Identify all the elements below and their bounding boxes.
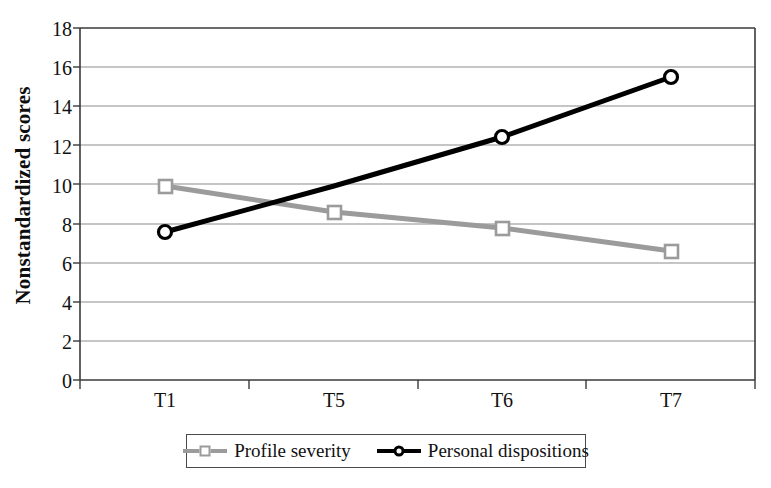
data-point-personal-dispositions-t1: [159, 226, 172, 239]
data-point-profile-severity-t7: [665, 245, 678, 258]
data-point-profile-severity-t1: [159, 180, 172, 193]
circle-marker-icon: [377, 443, 421, 459]
data-point-profile-severity-t5: [328, 206, 341, 219]
y-axis-ticks: [73, 28, 80, 380]
legend-label-profile-severity: Profile severity: [234, 441, 351, 461]
data-point-personal-dispositions-t7: [665, 71, 678, 84]
x-tick-label-t5: T5: [323, 389, 345, 411]
series-line-personal-dispositions: [165, 77, 671, 232]
x-tick-label-t7: T7: [660, 389, 682, 411]
data-point-profile-severity-t6: [496, 222, 509, 235]
legend-entry-profile-severity: Profile severity: [183, 441, 351, 461]
x-tick-label-t1: T1: [154, 389, 176, 411]
line-chart: Nonstandardized scores 18 16 14 12 10 8 …: [0, 0, 771, 488]
x-axis-tick-labels: T1 T5 T6 T7: [0, 389, 771, 419]
series-profile-severity: [159, 180, 678, 258]
series-personal-dispositions: [159, 71, 678, 239]
series-line-profile-severity: [165, 186, 671, 251]
data-point-personal-dispositions-t6: [496, 131, 509, 144]
x-tick-label-t6: T6: [491, 389, 513, 411]
x-axis-ticks: [80, 380, 755, 389]
chart-legend: Profile severity Personal dispositions: [186, 434, 586, 468]
legend-entry-personal-dispositions: Personal dispositions: [377, 441, 589, 461]
square-marker-icon: [183, 443, 227, 459]
gridlines: [80, 67, 755, 341]
legend-label-personal-dispositions: Personal dispositions: [428, 441, 589, 461]
